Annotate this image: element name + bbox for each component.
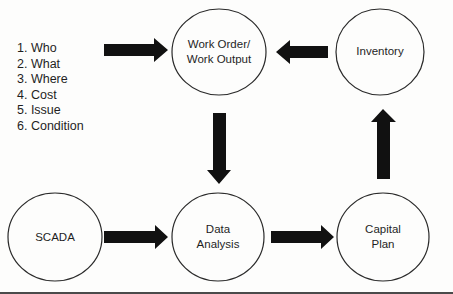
scada-label-text: SCADA [35, 230, 75, 245]
inventory-label: Inventory [356, 44, 403, 59]
checklist-item: 5. Issue [17, 103, 84, 119]
checklist-item: 2. What [17, 57, 84, 73]
arrow-right-icon [271, 225, 334, 249]
work-order-label-line2: Work Output [187, 52, 251, 67]
capital-plan-label: Capital Plan [365, 222, 401, 252]
arrow-down-icon [207, 113, 231, 184]
data-checklist: 1. Who 2. What 3. Where 4. Cost 5. Issue… [17, 41, 84, 134]
capital-plan-label-line2: Plan [365, 237, 401, 252]
data-analysis-label-line1: Data [197, 222, 240, 237]
checklist-item: 1. Who [17, 41, 84, 57]
checklist-item: 6. Condition [17, 119, 84, 135]
arrow-right-icon [104, 38, 168, 62]
arrow-right-icon [104, 225, 168, 249]
checklist-item: 3. Where [17, 72, 84, 88]
inventory-label-text: Inventory [356, 44, 403, 59]
capital-plan-label-line1: Capital [365, 222, 401, 237]
work-order-label: Work Order/ Work Output [187, 37, 251, 67]
checklist-item: 4. Cost [17, 88, 84, 104]
scada-label: SCADA [35, 230, 75, 245]
arrow-left-icon [276, 40, 328, 64]
data-analysis-label: Data Analysis [197, 222, 240, 252]
data-analysis-label-line2: Analysis [197, 237, 240, 252]
arrow-up-icon [371, 109, 396, 179]
diagram-canvas: 1. Who 2. What 3. Where 4. Cost 5. Issue… [0, 0, 453, 294]
work-order-label-line1: Work Order/ [187, 37, 251, 52]
